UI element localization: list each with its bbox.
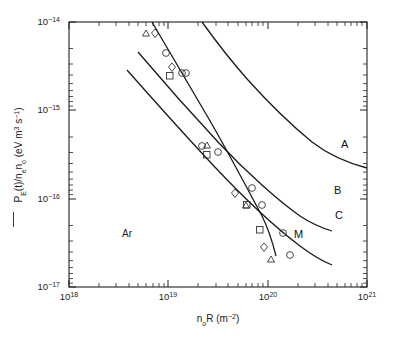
y-axis-title-group: PE(t)/neno (eV m3 s−1): [13, 108, 27, 227]
svg-text:10−14: 10−14: [38, 16, 61, 28]
svg-text:1021: 1021: [358, 291, 376, 303]
y-axis-tick-labels: 10−14 10−15 10−16 10−17: [38, 16, 61, 293]
x-tick-base-3: 10: [358, 291, 369, 302]
svg-text:10−15: 10−15: [38, 104, 61, 116]
x-tick-exp-3: 21: [368, 291, 376, 298]
y-axis-title-sup-m1: −1: [13, 111, 20, 119]
y-tick-exp-2: −16: [48, 193, 60, 200]
y-tick-base-2: 10: [38, 193, 49, 204]
y-tick-base-0: 10: [38, 16, 49, 27]
y-tick-base-1: 10: [38, 104, 49, 115]
svg-text:10−17: 10−17: [38, 281, 61, 293]
y-tick-exp-0: −14: [48, 16, 60, 23]
x-tick-exp-0: 18: [70, 291, 78, 298]
scientific-plot-figure: 10−14 10−15 10−16 10−17 1018 1019 1020 1…: [0, 0, 395, 340]
x-tick-base-2: 10: [259, 291, 270, 302]
x-axis-title-mid: R (m: [206, 313, 228, 324]
y-tick-exp-3: −17: [48, 281, 60, 288]
svg-text:1019: 1019: [159, 291, 177, 303]
x-axis-title-sup: −2: [228, 313, 236, 320]
curve-label-M: M: [294, 228, 303, 240]
curve-label-B: B: [334, 184, 341, 196]
svg-text:10−16: 10−16: [38, 193, 61, 205]
y-axis-title-close: ): [13, 108, 24, 111]
plot-frame: [69, 22, 367, 287]
y-axis-title-s: s: [13, 119, 24, 127]
svg-text:1018: 1018: [60, 291, 78, 303]
y-axis-title-t: (t)/n: [13, 173, 24, 191]
x-tick-base-0: 10: [60, 291, 71, 302]
svg-text:1020: 1020: [259, 291, 277, 303]
x-tick-exp-1: 19: [169, 291, 177, 298]
x-axis-title-suffix: ): [236, 313, 239, 324]
x-tick-exp-2: 20: [269, 291, 277, 298]
x-tick-base-1: 10: [159, 291, 170, 302]
y-tick-exp-1: −15: [48, 104, 60, 111]
x-axis-tick-labels: 1018 1019 1020 1021: [60, 291, 376, 303]
curve-label-C: C: [335, 209, 343, 221]
y-tick-base-3: 10: [38, 281, 49, 292]
curve-label-A: A: [341, 138, 349, 150]
y-axis-title-units: (eV m: [13, 131, 24, 160]
y-axis-title: PE(t)/neno (eV m3 s−1): [13, 108, 27, 203]
x-axis-title: noR (m−2): [197, 313, 239, 327]
gas-annotation-label: Ar: [122, 228, 133, 239]
